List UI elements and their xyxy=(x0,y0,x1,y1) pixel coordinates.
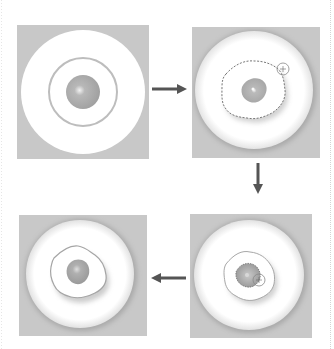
page-edge-left xyxy=(1,0,2,349)
arrow-right-icon xyxy=(152,82,188,100)
step-2-lasso-panel: Outer lasso selection drawn around core xyxy=(192,27,320,158)
step-1-original-panel: Original: concentric disc with ring and … xyxy=(17,25,149,159)
core xyxy=(66,75,100,109)
step-4-result-panel: Result: embossed selection xyxy=(19,215,147,336)
step-3-inner-selection-panel: Inner selection traced around core xyxy=(190,214,312,338)
page-edge-right xyxy=(330,0,331,349)
arrow-down-icon xyxy=(252,163,264,199)
arrow-left-icon xyxy=(150,271,186,289)
